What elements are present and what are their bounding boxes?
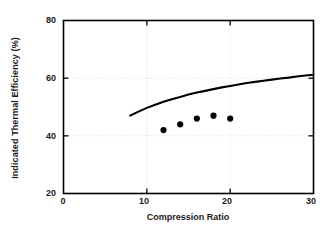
gridlines-group bbox=[64, 21, 314, 194]
x-tick-label-0: 0 bbox=[48, 196, 78, 206]
tick-marks-group bbox=[64, 21, 314, 194]
chart-figure: Indicated Thermal Efficiency (%) 80 60 4… bbox=[0, 0, 335, 240]
x-tick-label-20: 20 bbox=[212, 196, 242, 206]
theoretical-efficiency-curve bbox=[130, 75, 313, 116]
x-axis-label: Compression Ratio bbox=[63, 212, 313, 222]
y-tick-label-40: 40 bbox=[30, 131, 56, 141]
axes-frame bbox=[64, 21, 314, 194]
y-tick-label-60: 60 bbox=[30, 73, 56, 83]
measured-efficiency-points bbox=[160, 113, 233, 134]
x-tick-label-10: 10 bbox=[129, 196, 159, 206]
y-tick-label-80: 80 bbox=[30, 15, 56, 25]
x-tick-label-30: 30 bbox=[296, 196, 326, 206]
y-axis-label: Indicated Thermal Efficiency (%) bbox=[10, 37, 20, 179]
y-axis-label-container: Indicated Thermal Efficiency (%) bbox=[0, 0, 30, 215]
